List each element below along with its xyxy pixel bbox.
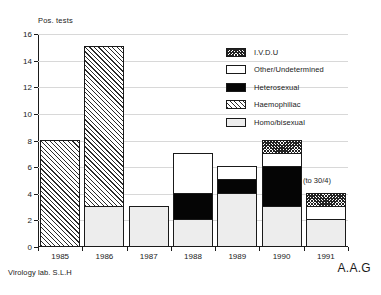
legend-item[interactable]: Haemophiliac bbox=[226, 99, 376, 111]
x-tick-mark bbox=[38, 247, 39, 251]
bar-segment-haemo[interactable] bbox=[84, 46, 124, 207]
x-tick-mark bbox=[259, 247, 260, 251]
bar-group[interactable] bbox=[173, 34, 213, 247]
x-tick-mark bbox=[171, 247, 172, 251]
bar-segment-homo[interactable] bbox=[173, 219, 213, 247]
y-tick-mark bbox=[34, 114, 38, 115]
bar-group[interactable] bbox=[84, 34, 124, 247]
author-initials: A.A.G bbox=[337, 261, 371, 275]
bar-segment-other[interactable] bbox=[306, 206, 346, 220]
legend-item[interactable]: Other/Undetermined bbox=[226, 64, 376, 76]
legend-item[interactable]: I.V.D.U bbox=[226, 46, 376, 58]
legend-swatch-white-fill bbox=[226, 65, 246, 74]
bar-segment-homo[interactable] bbox=[84, 206, 124, 247]
x-tick-mark bbox=[348, 247, 349, 251]
bar-segment-other[interactable] bbox=[262, 153, 302, 167]
y-tick-label: 4 bbox=[28, 189, 32, 198]
x-tick-mark bbox=[304, 247, 305, 251]
bar-segment-hetero[interactable] bbox=[173, 193, 213, 221]
annotation-to-30-4: (to 30/4) bbox=[303, 176, 331, 185]
y-tick-mark bbox=[34, 141, 38, 142]
legend-swatch-light-grey-fill bbox=[226, 118, 246, 127]
legend-label: Homo/bisexual bbox=[254, 118, 305, 127]
y-tick-mark bbox=[34, 220, 38, 221]
chart-container: Pos. tests 0246810121416 198519861987198… bbox=[0, 0, 381, 295]
bar-segment-haemo[interactable] bbox=[40, 140, 80, 248]
x-tick-mark bbox=[215, 247, 216, 251]
y-tick-label: 8 bbox=[28, 136, 32, 145]
bar-group[interactable] bbox=[40, 34, 80, 247]
bar-segment-ivdu[interactable] bbox=[262, 140, 302, 154]
y-tick-mark bbox=[34, 167, 38, 168]
y-tick-label: 6 bbox=[28, 163, 32, 172]
y-tick-mark bbox=[34, 34, 38, 35]
bar-segment-homo[interactable] bbox=[217, 193, 257, 247]
legend-swatch-black-fill bbox=[226, 83, 246, 92]
y-tick-label: 16 bbox=[23, 30, 32, 39]
x-tick-mark bbox=[127, 247, 128, 251]
bar-segment-hetero[interactable] bbox=[262, 166, 302, 207]
bar-segment-other[interactable] bbox=[217, 166, 257, 180]
y-axis-title: Pos. tests bbox=[38, 16, 73, 25]
legend-label: Heterosexual bbox=[254, 83, 299, 92]
x-tick-label: 1991 bbox=[296, 252, 356, 261]
legend-label: I.V.D.U bbox=[254, 48, 278, 57]
source-credit: Virology lab. S.L.H bbox=[8, 268, 72, 277]
legend-label: Other/Undetermined bbox=[254, 65, 324, 74]
legend-item[interactable]: Homo/bisexual bbox=[226, 116, 376, 128]
y-tick-label: 2 bbox=[28, 216, 32, 225]
bar-segment-other[interactable] bbox=[173, 153, 213, 194]
y-tick-label: 0 bbox=[28, 243, 32, 252]
x-tick-mark bbox=[82, 247, 83, 251]
y-tick-mark bbox=[34, 87, 38, 88]
y-tick-mark bbox=[34, 194, 38, 195]
bar-group[interactable] bbox=[129, 34, 169, 247]
legend-swatch-haemo-pattern-diagonal bbox=[226, 100, 246, 109]
y-tick-label: 12 bbox=[23, 83, 32, 92]
bar-segment-homo[interactable] bbox=[129, 206, 169, 247]
y-tick-label: 14 bbox=[23, 56, 32, 65]
legend: I.V.D.UOther/UndeterminedHeterosexualHae… bbox=[226, 46, 376, 134]
legend-label: Haemophiliac bbox=[254, 100, 301, 109]
bar-segment-homo[interactable] bbox=[306, 219, 346, 247]
legend-swatch-ivdu-pattern-checker bbox=[226, 48, 246, 57]
bar-segment-homo[interactable] bbox=[262, 206, 302, 247]
bar-segment-ivdu[interactable] bbox=[306, 193, 346, 207]
y-tick-label: 10 bbox=[23, 109, 32, 118]
y-tick-mark bbox=[34, 61, 38, 62]
bar-segment-hetero[interactable] bbox=[217, 179, 257, 193]
legend-item[interactable]: Heterosexual bbox=[226, 81, 376, 93]
